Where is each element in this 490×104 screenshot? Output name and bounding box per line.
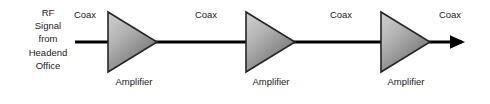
amplifier-symbol-3	[381, 12, 430, 72]
amplifier-symbol-2	[246, 12, 295, 72]
diagram-canvas: RF Signal from Headend Office Coax Coax …	[0, 0, 490, 104]
diagram-vector-layer	[0, 0, 490, 104]
amplifier-symbol-1	[108, 12, 157, 72]
